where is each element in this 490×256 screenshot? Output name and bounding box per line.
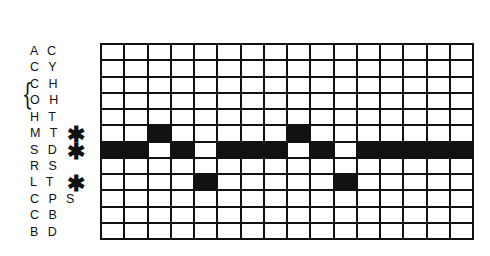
grid-cell — [125, 78, 146, 92]
grid-cell — [311, 61, 332, 75]
grid-cell — [102, 78, 123, 92]
grid-cell — [218, 159, 239, 173]
grid-cell — [288, 110, 309, 124]
grid-cell — [172, 208, 193, 222]
asterisk-marker-icon: ✱ — [67, 144, 85, 160]
grid-cell — [358, 159, 379, 173]
grid-cell — [288, 159, 309, 173]
grid-cell — [358, 61, 379, 75]
grid-cell — [404, 78, 425, 92]
grid-cell — [102, 94, 123, 108]
grid-cell — [218, 94, 239, 108]
grid-cell — [428, 224, 449, 238]
row-label: A C — [30, 43, 59, 59]
grid-cell — [265, 78, 286, 92]
grid-cell — [358, 94, 379, 108]
grid-cell — [195, 175, 216, 189]
grid-cell — [428, 126, 449, 140]
grid-cell — [172, 61, 193, 75]
grid-cell — [451, 126, 472, 140]
grid-cell — [451, 224, 472, 238]
grid-cell — [172, 110, 193, 124]
grid-cell — [288, 143, 309, 157]
grid-cell — [218, 110, 239, 124]
grid-cell — [451, 94, 472, 108]
grid-cell — [242, 126, 263, 140]
grid-cell — [242, 175, 263, 189]
grid-cell — [404, 126, 425, 140]
bracket-ch-oh: { — [22, 79, 33, 109]
grid-cell — [195, 143, 216, 157]
row-label: S D — [30, 142, 60, 158]
row-label: C P S — [30, 191, 77, 207]
grid-cell — [335, 94, 356, 108]
grid-cell — [265, 94, 286, 108]
grid-cell — [335, 208, 356, 222]
grid-cell — [125, 191, 146, 205]
grid-cell — [451, 159, 472, 173]
row-label: O H — [30, 92, 61, 108]
grid-cell — [102, 126, 123, 140]
grid-cell — [172, 224, 193, 238]
grid-cell — [335, 110, 356, 124]
grid-cell — [358, 175, 379, 189]
grid-cell — [451, 61, 472, 75]
grid-cell — [404, 110, 425, 124]
grid-cell — [149, 78, 170, 92]
grid-cell — [125, 110, 146, 124]
grid-cell — [311, 159, 332, 173]
grid-cell — [358, 110, 379, 124]
grid-cell — [195, 94, 216, 108]
grid-cell — [242, 143, 263, 157]
grid-cell — [428, 61, 449, 75]
grid-cell — [404, 159, 425, 173]
grid-cell — [102, 159, 123, 173]
grid-cell — [381, 159, 402, 173]
grid-cell — [218, 224, 239, 238]
grid-cell — [311, 78, 332, 92]
grid-cell — [149, 110, 170, 124]
grid-cell — [242, 78, 263, 92]
row-label: M T — [30, 125, 60, 141]
grid-cell — [218, 45, 239, 59]
grid-cell — [335, 191, 356, 205]
grid-cell — [381, 143, 402, 157]
row-label: C B — [30, 207, 60, 223]
grid-cell — [381, 110, 402, 124]
grid-cell — [265, 175, 286, 189]
row-label: C Y — [30, 59, 60, 75]
grid-cell — [311, 110, 332, 124]
grid-cell — [265, 143, 286, 157]
grid-cell — [149, 94, 170, 108]
grid-cell — [265, 61, 286, 75]
grid-cell — [428, 110, 449, 124]
grid-cell — [404, 191, 425, 205]
grid-cell — [218, 208, 239, 222]
grid-cell — [335, 45, 356, 59]
grid-cell — [404, 143, 425, 157]
grid-cell — [381, 94, 402, 108]
grid-cell — [149, 45, 170, 59]
grid-cell — [242, 224, 263, 238]
grid-cell — [381, 191, 402, 205]
grid-cell — [288, 94, 309, 108]
grid-cell — [381, 224, 402, 238]
grid-cell — [172, 143, 193, 157]
grid-cell — [149, 126, 170, 140]
grid-cell — [102, 224, 123, 238]
grid-cell — [102, 61, 123, 75]
grid-cell — [125, 45, 146, 59]
grid-cell — [288, 191, 309, 205]
grid-cell — [335, 159, 356, 173]
grid-cell — [311, 224, 332, 238]
grid-cell — [404, 224, 425, 238]
grid-cell — [218, 78, 239, 92]
grid-cell — [102, 191, 123, 205]
grid-cell — [149, 208, 170, 222]
grid-cell — [265, 224, 286, 238]
grid-cell — [149, 159, 170, 173]
grid-cell — [311, 208, 332, 222]
grid-cell — [381, 61, 402, 75]
grid-cell — [172, 94, 193, 108]
grid-cell — [125, 224, 146, 238]
